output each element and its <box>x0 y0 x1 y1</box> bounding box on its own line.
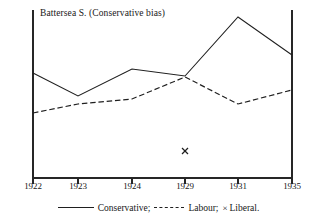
axis-frame <box>33 10 292 178</box>
chart-figure: Battersea S. (Conservative bias) 1922 19… <box>0 0 317 223</box>
legend-swatch-labour-icon <box>154 207 184 208</box>
chart-title: Battersea S. (Conservative bias) <box>40 8 165 18</box>
series-marker-liberal <box>182 148 188 154</box>
x-tick-label-1924: 1924 <box>123 181 141 191</box>
series-line-conservative <box>33 17 292 96</box>
x-axis-tick-labels: 1922 1923 1924 1929 1931 1935 <box>0 181 317 195</box>
chart-legend: Conservative; Labour; × Liberal. <box>0 203 317 213</box>
x-tick-label-1935: 1935 <box>283 181 301 191</box>
legend-label-labour: Labour; <box>188 203 218 213</box>
legend-swatch-conservative-icon <box>58 207 94 208</box>
axes-group <box>33 10 292 178</box>
x-tick-label-1922: 1922 <box>24 181 42 191</box>
series-line-labour <box>33 77 292 113</box>
x-tick-label-1931: 1931 <box>229 181 247 191</box>
x-tick-label-1923: 1923 <box>69 181 87 191</box>
x-tick-label-1929: 1929 <box>176 181 194 191</box>
legend-label-liberal: Liberal. <box>230 203 260 213</box>
legend-marker-liberal-icon: × <box>222 204 227 213</box>
legend-label-conservative: Conservative; <box>98 203 151 213</box>
